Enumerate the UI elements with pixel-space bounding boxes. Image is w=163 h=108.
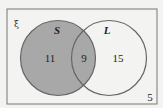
- region-intersection-value: 9: [81, 52, 87, 64]
- region-l-only-value: 15: [113, 52, 125, 64]
- set-l-label: L: [103, 24, 111, 36]
- universal-set-symbol: ξ: [14, 19, 19, 29]
- region-s-only-value: 11: [45, 52, 56, 64]
- venn-diagram: ξ S L 11 9 15 5: [0, 0, 163, 108]
- set-s-label: S: [54, 24, 60, 36]
- region-outside-value: 5: [147, 91, 153, 103]
